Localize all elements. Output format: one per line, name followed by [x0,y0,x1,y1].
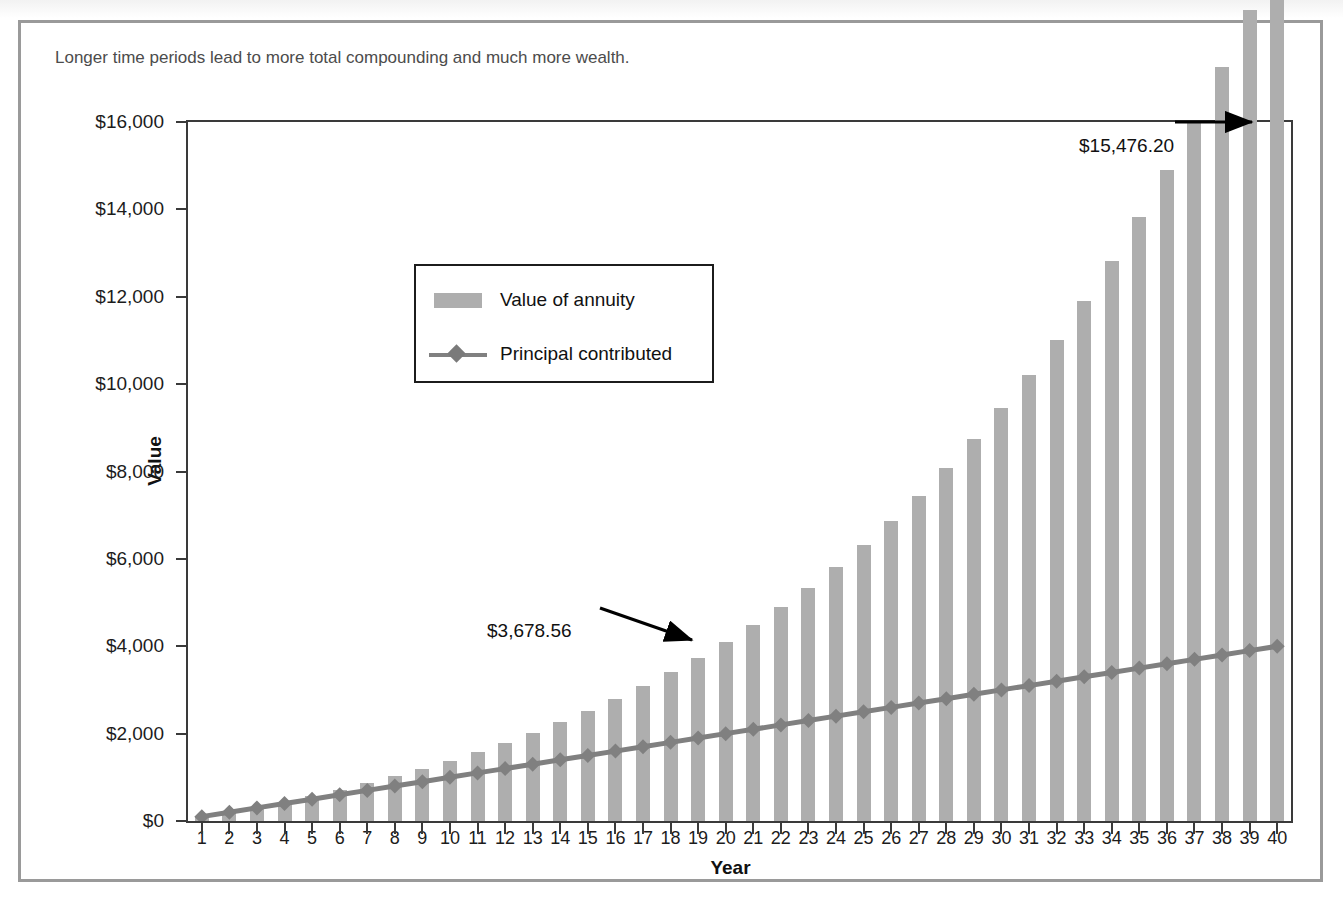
x-tick-mark-3 [256,823,258,834]
x-tick-mark-35 [1138,823,1140,834]
y-tick-label-4000: $4,000 [106,635,164,657]
x-axis-title: Year [168,857,1293,879]
y-tick-mark-6000 [176,558,187,560]
plot-box [186,120,1293,823]
x-tick-mark-34 [1111,823,1113,834]
y-tick-label-6000: $6,000 [106,548,164,570]
y-tick-mark-16000 [176,121,187,123]
x-tick-mark-24 [835,823,837,834]
x-tick-mark-12 [504,823,506,834]
x-tick-mark-8 [394,823,396,834]
x-tick-mark-29 [973,823,975,834]
y-tick-label-12000: $12,000 [95,286,164,308]
x-tick-mark-27 [918,823,920,834]
legend-label-0: Value of annuity [500,289,635,311]
x-tick-mark-14 [559,823,561,834]
y-tick-label-2000: $2,000 [106,723,164,745]
legend-item-principal-contributed[interactable]: Principal contributed [416,334,716,374]
x-tick-mark-23 [807,823,809,834]
y-tick-label-16000: $16,000 [95,111,164,133]
y-tick-mark-8000 [176,471,187,473]
chart-legend: Value of annuity Principal contributed [414,264,714,383]
x-tick-mark-31 [1028,823,1030,834]
y-tick-label-14000: $14,000 [95,198,164,220]
y-tick-label-0: $0 [143,810,164,832]
legend-label-1: Principal contributed [500,343,672,365]
x-tick-mark-16 [614,823,616,834]
y-tick-mark-4000 [176,645,187,647]
x-tick-mark-36 [1166,823,1168,834]
x-tick-mark-9 [421,823,423,834]
x-tick-mark-32 [1056,823,1058,834]
legend-item-value-of-annuity[interactable]: Value of annuity [416,280,716,320]
x-tick-mark-18 [670,823,672,834]
plot-area: Value $0$2,000$4,000$6,000$8,000$10,000$… [168,100,1293,823]
x-tick-mark-6 [339,823,341,834]
x-tick-mark-37 [1193,823,1195,834]
x-tick-mark-28 [945,823,947,834]
x-tick-mark-17 [642,823,644,834]
legend-line-diamond-icon [416,346,500,362]
x-tick-mark-19 [697,823,699,834]
annotation-final-value: $15,476.20 [1079,135,1174,157]
y-tick-mark-0 [176,820,187,822]
x-tick-mark-11 [477,823,479,834]
x-tick-mark-10 [449,823,451,834]
annotation-midpoint-value: $3,678.56 [487,620,572,642]
x-tick-mark-25 [863,823,865,834]
scan-texture-band [0,0,1343,18]
x-tick-mark-20 [725,823,727,834]
x-tick-mark-5 [311,823,313,834]
x-tick-mark-21 [752,823,754,834]
x-tick-mark-40 [1276,823,1278,834]
y-tick-label-8000: $8,000 [106,461,164,483]
x-tick-mark-38 [1221,823,1223,834]
y-tick-mark-14000 [176,208,187,210]
x-tick-mark-7 [366,823,368,834]
legend-bar-swatch-icon [416,293,500,308]
x-tick-mark-13 [532,823,534,834]
x-tick-mark-33 [1083,823,1085,834]
x-tick-mark-1 [201,823,203,834]
y-tick-mark-12000 [176,296,187,298]
x-tick-mark-2 [228,823,230,834]
x-tick-mark-39 [1249,823,1251,834]
x-tick-mark-4 [284,823,286,834]
x-tick-mark-22 [780,823,782,834]
figure-frame: Longer time periods lead to more total c… [18,20,1323,882]
chart-subtitle: Longer time periods lead to more total c… [55,48,630,68]
x-tick-mark-30 [1000,823,1002,834]
x-tick-mark-15 [587,823,589,834]
y-tick-label-10000: $10,000 [95,373,164,395]
y-tick-mark-2000 [176,733,187,735]
x-tick-mark-26 [890,823,892,834]
y-tick-mark-10000 [176,383,187,385]
